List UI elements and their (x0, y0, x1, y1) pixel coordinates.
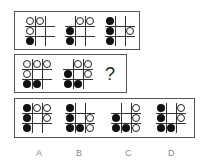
black-dot-icon (157, 124, 165, 132)
white-circle-icon (86, 114, 94, 122)
grid-cell (73, 59, 83, 69)
black-dot-icon (106, 37, 114, 45)
white-circle-icon (23, 60, 31, 68)
grid-cell (22, 59, 32, 69)
option-a-label[interactable]: A (36, 148, 42, 158)
black-dot-icon (106, 17, 114, 25)
option-a-grid[interactable] (22, 103, 52, 133)
grid-cell (22, 123, 32, 133)
white-circle-icon (23, 70, 31, 78)
black-dot-icon (157, 114, 165, 122)
row2-frame: ? (14, 54, 127, 93)
black-dot-icon (157, 104, 165, 112)
white-circle-icon (33, 104, 41, 112)
black-dot-icon (64, 80, 72, 88)
grid-cell (156, 103, 166, 113)
option-b-grid[interactable] (65, 103, 95, 133)
black-dot-icon (76, 124, 84, 132)
grid-cell (65, 113, 75, 123)
row1-grid-3 (105, 16, 135, 46)
option-c-label[interactable]: C (125, 148, 132, 158)
white-circle-icon (84, 60, 92, 68)
white-circle-icon (26, 17, 34, 25)
grid-cell (111, 123, 121, 133)
black-dot-icon (106, 27, 114, 35)
option-b-label[interactable]: B (76, 148, 82, 158)
options-frame (14, 98, 195, 138)
white-circle-icon (177, 114, 185, 122)
grid-cell (63, 79, 73, 89)
option-d-grid[interactable] (156, 103, 186, 133)
grid-cell (35, 16, 45, 26)
grid-cell (73, 79, 83, 89)
grid-cell (25, 16, 35, 26)
grid-cell (22, 69, 32, 79)
grid-line (45, 16, 46, 46)
black-dot-icon (33, 80, 41, 88)
grid-cell (121, 123, 131, 133)
white-circle-icon (177, 104, 185, 112)
white-circle-icon (86, 17, 94, 25)
white-circle-icon (43, 114, 51, 122)
black-dot-icon (167, 124, 175, 132)
grid-cell (75, 16, 85, 26)
black-dot-icon (23, 104, 31, 112)
black-dot-icon (26, 37, 34, 45)
row1-grid-1 (25, 16, 55, 46)
black-dot-icon (64, 70, 72, 78)
grid-cell (42, 59, 52, 69)
grid-cell (156, 123, 166, 133)
grid-cell (65, 123, 75, 133)
grid-line (115, 16, 116, 46)
grid-cell (85, 16, 95, 26)
black-dot-icon (112, 114, 120, 122)
black-dot-icon (66, 124, 74, 132)
row1-grid-2 (65, 16, 95, 46)
grid-cell (85, 123, 95, 133)
grid-cell (63, 69, 73, 79)
grid-cell (131, 113, 141, 123)
white-circle-icon (76, 17, 84, 25)
black-dot-icon (122, 124, 130, 132)
grid-cell (32, 79, 42, 89)
grid-cell (85, 113, 95, 123)
grid-cell (22, 79, 32, 89)
white-circle-icon (43, 60, 51, 68)
grid-cell (131, 103, 141, 113)
grid-cell (25, 36, 35, 46)
grid-cell (32, 103, 42, 113)
black-dot-icon (23, 114, 31, 122)
white-circle-icon (86, 124, 94, 132)
grid-cell (22, 113, 32, 123)
grid-cell (105, 26, 115, 36)
grid-cell (25, 26, 35, 36)
question-mark: ? (105, 64, 115, 85)
black-dot-icon (74, 80, 82, 88)
white-circle-icon (36, 17, 44, 25)
option-c-grid[interactable] (111, 103, 141, 133)
option-d-label[interactable]: D (168, 148, 175, 158)
black-dot-icon (23, 80, 31, 88)
grid-cell (65, 103, 75, 113)
grid-cell (42, 103, 52, 113)
grid-cell (176, 103, 186, 113)
grid-cell (131, 123, 141, 133)
grid-cell (42, 113, 52, 123)
black-dot-icon (112, 124, 120, 132)
grid-cell (105, 36, 115, 46)
white-circle-icon (132, 114, 140, 122)
white-circle-icon (84, 70, 92, 78)
grid-cell (22, 103, 32, 113)
white-circle-icon (33, 60, 41, 68)
grid-cell (125, 26, 135, 36)
grid-cell (65, 36, 75, 46)
grid-cell (75, 123, 85, 133)
white-circle-icon (26, 27, 34, 35)
grid-cell (65, 26, 75, 36)
black-dot-icon (66, 37, 74, 45)
black-dot-icon (66, 104, 74, 112)
white-circle-icon (132, 124, 140, 132)
row2-grid-1 (22, 59, 52, 89)
black-dot-icon (66, 27, 74, 35)
row2-grid-2 (63, 59, 93, 89)
